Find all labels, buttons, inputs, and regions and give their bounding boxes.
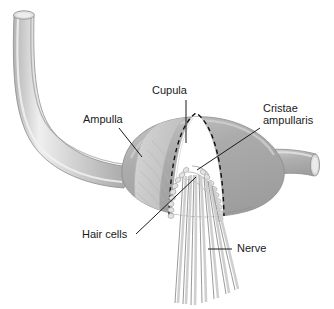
exit-tube-opening-inner: [312, 157, 318, 173]
label-cristae-line2: ampullaris: [263, 114, 314, 126]
semicircular-canal-tube: [13, 11, 130, 188]
label-nerve: Nerve: [237, 242, 266, 254]
anatomy-diagram: Cupula Ampulla Cristae ampullaris Hair c…: [0, 0, 334, 309]
label-cristae-line1: Cristae: [263, 102, 298, 114]
diagram-canvas: Cupula Ampulla Cristae ampullaris Hair c…: [0, 0, 334, 309]
label-hair-cells: Hair cells: [82, 228, 128, 240]
canal-tube-opening-inner: [17, 12, 32, 17]
label-cupula: Cupula: [152, 84, 188, 96]
label-ampulla: Ampulla: [83, 113, 124, 125]
